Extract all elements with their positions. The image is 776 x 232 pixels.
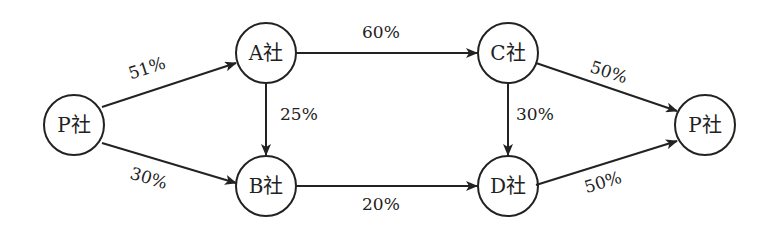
edge-p-a <box>102 63 236 107</box>
edge-label-b-d: 20% <box>362 194 400 214</box>
node-b: B社 <box>236 174 296 198</box>
node-d: D社 <box>478 174 538 198</box>
node-a: A社 <box>236 41 296 65</box>
node-p-right: P社 <box>675 113 735 137</box>
edge-label-a-b: 25% <box>280 104 318 124</box>
ownership-diagram: P社 A社 B社 C社 D社 P社 51% 30% 25% 60% 20% 30… <box>0 0 776 232</box>
edge-p-b <box>102 143 236 183</box>
edge-label-c-d: 30% <box>516 104 554 124</box>
node-p-left: P社 <box>44 113 104 137</box>
edge-label-a-c: 60% <box>362 22 400 42</box>
node-c: C社 <box>478 41 538 65</box>
